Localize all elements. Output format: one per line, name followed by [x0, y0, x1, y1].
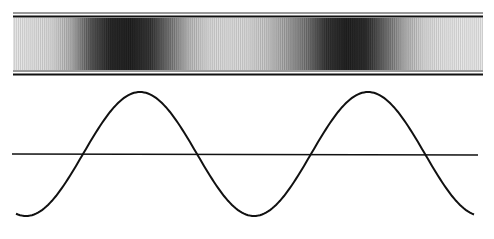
wave-figure	[0, 0, 494, 239]
